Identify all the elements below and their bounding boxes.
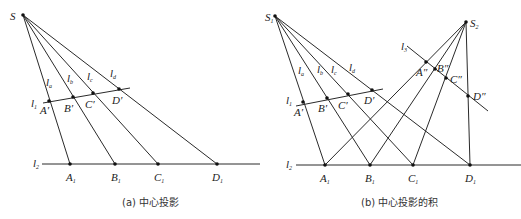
label-A-prime: A′: [293, 106, 304, 118]
point-D1: [215, 162, 219, 166]
point-B-prime: [71, 95, 75, 99]
ray-la: [275, 16, 325, 165]
caption-b: (b) 中心投影的积: [361, 196, 438, 208]
label-B-prime: B′: [64, 102, 74, 114]
point-A1: [323, 163, 327, 167]
label-lc: lc: [331, 63, 337, 76]
central-projection-diagram: S la lb lc ld l1 l2 A′ B′ C′ D′ A1 B1 C1…: [0, 0, 521, 219]
label-la: la: [298, 64, 304, 77]
label-l1: l1: [286, 94, 292, 107]
ray-s2-b: [370, 22, 466, 165]
point-B-prime: [325, 96, 329, 100]
label-lc: lc: [87, 70, 93, 83]
ray-la: [23, 15, 70, 164]
point-C-double-prime: [444, 76, 448, 80]
label-D-double-prime: D″: [472, 90, 486, 102]
point-S2: [464, 20, 468, 24]
panel-b-product-of-central-projections: S1 S2 la lb lc ld l1 l3 l2 A′ B′ C′ D′ A…: [265, 11, 521, 208]
caption-a: (a) 中心投影: [122, 196, 179, 208]
label-A1: A1: [65, 171, 76, 184]
point-A-prime: [47, 99, 51, 103]
label-la: la: [46, 76, 52, 89]
ray-lb: [275, 16, 370, 165]
label-l2: l2: [33, 157, 39, 170]
point-C-prime: [346, 92, 350, 96]
label-D-prime: D′: [111, 94, 123, 106]
label-S: S: [10, 10, 16, 22]
point-B1: [368, 163, 372, 167]
label-C-prime: C′: [85, 98, 95, 110]
label-C-double-prime: C″: [450, 73, 462, 85]
label-l1: l1: [31, 97, 37, 110]
label-lb: lb: [67, 72, 73, 85]
label-S2: S2: [470, 17, 479, 30]
point-C-prime: [91, 91, 95, 95]
label-lb: lb: [317, 63, 323, 76]
label-ld: ld: [110, 67, 117, 80]
label-D-prime: D′: [363, 94, 375, 106]
label-B-prime: B′: [318, 102, 328, 114]
label-B1: B1: [111, 171, 121, 184]
point-C1: [411, 163, 415, 167]
point-A-double-prime: [424, 60, 428, 64]
point-D1: [468, 163, 472, 167]
label-A-double-prime: A″: [415, 66, 428, 78]
label-S1: S1: [265, 11, 274, 24]
ray-lc: [23, 15, 158, 164]
point-C1: [156, 162, 160, 166]
point-S1: [273, 14, 277, 18]
point-A-prime: [301, 100, 305, 104]
point-S: [21, 13, 25, 17]
ray-s2-c: [413, 22, 466, 165]
point-D-prime: [117, 87, 121, 91]
label-D1: D1: [211, 171, 223, 184]
label-l2: l2: [286, 158, 292, 171]
label-B-double-prime: B″: [437, 62, 449, 74]
label-C1: C1: [408, 172, 418, 185]
label-A-prime: A′: [39, 104, 50, 116]
ray-lb: [23, 15, 115, 164]
point-D-prime: [370, 88, 374, 92]
label-C-prime: C′: [338, 99, 348, 111]
label-ld: ld: [349, 61, 356, 74]
panel-a-central-projection: S la lb lc ld l1 l2 A′ B′ C′ D′ A1 B1 C1…: [10, 10, 260, 208]
point-B1: [113, 162, 117, 166]
ray-lc: [275, 16, 413, 165]
point-A1: [68, 162, 72, 166]
label-D1: D1: [464, 172, 476, 185]
label-B1: B1: [365, 172, 375, 185]
label-C1: C1: [154, 171, 164, 184]
point-D-double-prime: [466, 94, 470, 98]
label-A1: A1: [319, 172, 330, 185]
label-l3: l3: [401, 40, 407, 53]
